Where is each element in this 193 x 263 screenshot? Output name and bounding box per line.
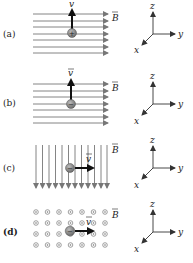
- field-dot-icon: [70, 222, 72, 224]
- field-label-d: B: [111, 210, 119, 220]
- axis-y-label: y: [177, 29, 184, 39]
- velocity-label-c: v: [86, 154, 91, 164]
- field-dot-icon: [47, 211, 49, 213]
- field-dot-icon: [35, 222, 37, 224]
- field-dot-icon: [104, 211, 106, 213]
- panel-label-d: (d): [3, 227, 18, 237]
- field-dot-icon: [93, 244, 95, 246]
- panel-d: (d) B − v z y x: [3, 199, 184, 254]
- field-dot-icon: [93, 222, 95, 224]
- axis-z-label: z: [149, 1, 155, 11]
- field-dot-icon: [35, 244, 37, 246]
- field-dot-icon: [58, 244, 60, 246]
- field-dot-icon: [47, 222, 49, 224]
- axis-x-label: x: [134, 180, 139, 190]
- axis-z-label: z: [149, 71, 155, 81]
- field-dot-icon: [81, 244, 83, 246]
- velocity-label-a: v: [69, 0, 74, 9]
- field-label-a: B: [111, 13, 119, 23]
- field-dot-icon: [81, 211, 83, 213]
- axis-x-label: x: [134, 45, 139, 55]
- field-dot-icon: [58, 211, 60, 213]
- panel-b: (b) B v − z y x: [3, 68, 184, 126]
- field-dot-icon: [93, 211, 95, 213]
- field-label-b: B: [111, 83, 119, 93]
- panel-c: (c) B − v z y x: [3, 135, 184, 190]
- axes-d: z y x: [134, 199, 184, 254]
- panel-label-a: (a): [3, 29, 15, 39]
- field-dot-icon: [70, 211, 72, 213]
- panel-label-b: (b): [3, 98, 16, 108]
- charge-sign-d: −: [67, 228, 73, 236]
- field-dot-icon: [47, 244, 49, 246]
- axes-a: z y x: [134, 1, 184, 55]
- field-dot-icon: [58, 233, 60, 235]
- field-dot-icon: [47, 233, 49, 235]
- field-dot-icon: [93, 233, 95, 235]
- field-dot-icon: [104, 222, 106, 224]
- axis-z-label: z: [149, 199, 155, 209]
- charge-sign-b: −: [68, 101, 74, 109]
- field-dot-icon: [81, 233, 83, 235]
- field-dot-icon: [35, 233, 37, 235]
- axis-z-label: z: [149, 135, 155, 145]
- axis-x-label: x: [134, 244, 139, 254]
- axis-y-label: y: [177, 227, 184, 237]
- axis-x-label: x: [134, 116, 139, 126]
- axes-c: z y x: [134, 135, 184, 190]
- field-dot-icon: [104, 244, 106, 246]
- field-dot-icon: [70, 244, 72, 246]
- axis-y-label: y: [177, 99, 184, 109]
- field-label-c: B: [111, 145, 119, 155]
- field-dot-icon: [35, 211, 37, 213]
- axis-y-label: y: [177, 163, 184, 173]
- velocity-label-d: v: [86, 217, 91, 227]
- field-dot-icon: [58, 222, 60, 224]
- panel-a: (a) B v + z y x: [3, 0, 184, 55]
- velocity-label-b: v: [68, 68, 73, 78]
- charge-sign-a: +: [69, 30, 75, 38]
- field-dot-icon: [81, 222, 83, 224]
- magnetic-force-diagram: (a) B v + z y x (b): [0, 0, 193, 263]
- field-dot-icon: [104, 233, 106, 235]
- axes-b: z y x: [134, 71, 184, 126]
- charge-sign-c: −: [67, 165, 73, 173]
- panel-label-c: (c): [3, 163, 15, 173]
